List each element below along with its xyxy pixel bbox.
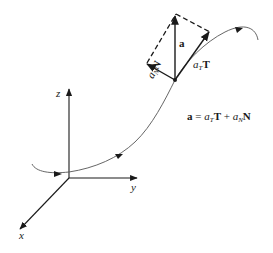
y-axis-label: y (131, 182, 136, 193)
eq-equals: = (193, 110, 205, 122)
space-curve (32, 27, 258, 173)
eq-plus: + (221, 110, 233, 122)
x-axis (20, 178, 69, 229)
coordinate-axes (20, 89, 137, 229)
arrow-icon (54, 171, 62, 177)
curve-direction-arrows (54, 27, 243, 177)
z-axis-label: z (56, 88, 60, 99)
tangential-component-label: aTT (193, 59, 210, 72)
arrow-icon (235, 27, 243, 33)
x-axis-label: x (19, 230, 24, 241)
tangential-vec: T (202, 58, 209, 70)
diagram-canvas: z y x a aTT aNN a = aTT + aNN (0, 0, 273, 253)
acceleration-equation: a = aTT + aNN (187, 111, 251, 124)
eq-t2-vec: N (243, 110, 251, 122)
eq-t1-vec: T (214, 110, 221, 122)
point-on-curve (173, 78, 177, 82)
vector-a-label: a (179, 38, 185, 49)
diagram-graphics (0, 0, 273, 253)
